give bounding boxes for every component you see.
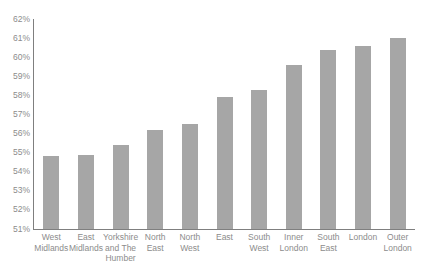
y-axis-tick-label: 62% xyxy=(0,15,30,24)
x-axis-category-label: OuterLondon xyxy=(375,232,420,253)
x-axis-line xyxy=(33,229,415,230)
plot-area xyxy=(34,19,415,229)
y-axis-tick-label: 57% xyxy=(0,110,30,119)
bar xyxy=(147,130,163,229)
y-axis-tick-label: 51% xyxy=(0,225,30,234)
y-axis-tick-label: 58% xyxy=(0,91,30,100)
y-axis-tick-label: 60% xyxy=(0,53,30,62)
bar xyxy=(43,156,59,229)
y-axis-tick-label: 53% xyxy=(0,186,30,195)
y-axis-tick-label: 61% xyxy=(0,34,30,43)
y-axis-labels: 62%61%60%59%58%57%56%55%54%53%52%51% xyxy=(0,0,30,236)
bar xyxy=(355,46,371,229)
x-axis-category-label-line: West xyxy=(168,243,213,254)
bar-chart: 62%61%60%59%58%57%56%55%54%53%52%51% Wes… xyxy=(0,0,424,276)
bar xyxy=(251,90,267,229)
x-axis-category-labels: WestMidlandsEastMidlandsYorkshireand The… xyxy=(34,232,415,276)
y-axis-tick-label: 52% xyxy=(0,205,30,214)
x-axis-category-label-line: Humber xyxy=(98,253,143,264)
bar xyxy=(78,155,94,229)
y-axis-tick-label: 56% xyxy=(0,129,30,138)
x-axis-category-label-line: London xyxy=(375,243,420,254)
bar xyxy=(390,38,406,229)
bar xyxy=(217,97,233,229)
bar xyxy=(182,124,198,229)
x-axis-category-label-line: East xyxy=(306,243,351,254)
y-axis-tick-label: 59% xyxy=(0,72,30,81)
bar xyxy=(320,50,336,229)
y-axis-tick-label: 54% xyxy=(0,167,30,176)
x-axis-category-label-line: Outer xyxy=(375,232,420,243)
y-axis-tick-label: 55% xyxy=(0,148,30,157)
bar xyxy=(113,145,129,229)
bar xyxy=(286,65,302,229)
